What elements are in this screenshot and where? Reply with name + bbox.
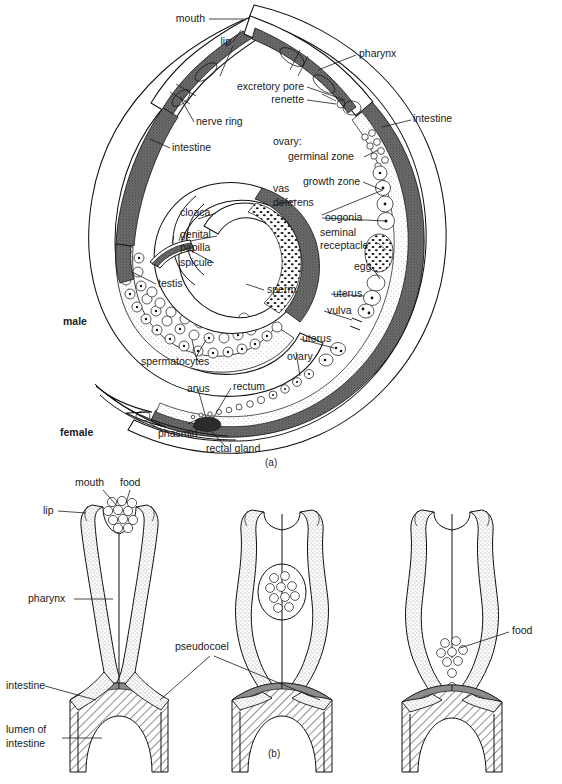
- pseudocoel-label: pseudocoel: [175, 640, 229, 652]
- spicule-label: spicule: [180, 256, 213, 268]
- food-right-label: food: [512, 624, 533, 636]
- sperm-label: sperm: [267, 283, 296, 295]
- mouth-label: mouth: [176, 12, 205, 24]
- female-label-label: female: [60, 426, 93, 438]
- panel-b-caption-label: (b): [268, 748, 280, 759]
- receptacle-label: receptacle: [320, 239, 369, 251]
- intestine-left-label: intestine: [172, 141, 211, 153]
- vas-label: vas: [273, 182, 289, 194]
- panel-a-caption-label: (a): [265, 457, 277, 468]
- cloaca-label: cloaca: [180, 206, 211, 218]
- seminal-label: seminal: [320, 226, 356, 238]
- intestine-label: intestine: [6, 679, 45, 691]
- uterus-upper-label: uterus: [333, 287, 362, 299]
- deferens-label: deferens: [273, 196, 314, 208]
- mouth-label: mouth: [75, 476, 104, 488]
- spermatocytes-label: spermatocytes: [141, 355, 209, 367]
- germinal-zone-label: germinal zone: [288, 150, 354, 162]
- intestine-2-label: intestine: [6, 737, 45, 749]
- male-label-label: male: [63, 315, 87, 327]
- papilla-label: papilla: [180, 241, 211, 253]
- phasmid-label: phasmid: [158, 427, 198, 439]
- ovary-heading-label: ovary:: [273, 135, 302, 147]
- testis-label: testis: [158, 277, 183, 289]
- pharynx-label: pharynx: [359, 47, 397, 59]
- nerve-ring-label: nerve ring: [196, 115, 243, 127]
- vulva-label: vulva: [327, 304, 352, 316]
- lumen-of-label: lumen of: [6, 723, 46, 735]
- uterus-lower-label: uterus: [302, 332, 331, 344]
- anus-label: anus: [187, 382, 210, 394]
- egg-label: egg: [354, 260, 372, 272]
- intestine-right-label: intestine: [413, 112, 452, 124]
- excretory-pore-label: excretory pore: [237, 80, 304, 92]
- rectal-gland-label: rectal gland: [206, 442, 260, 454]
- nematode-anatomy-figure: mouthlippharynxexcretory porerenetteinte…: [0, 0, 562, 784]
- rectum-label: rectum: [233, 380, 265, 392]
- pharynx-label: pharynx: [28, 592, 66, 604]
- lip-label: lip: [43, 504, 54, 516]
- lip-label: lip: [220, 35, 231, 47]
- oogonia-label: oogonia: [325, 211, 363, 223]
- food-left-label: food: [120, 476, 141, 488]
- genital-label: genital: [180, 228, 211, 240]
- ovary-label: ovary: [287, 350, 313, 362]
- renette-label: renette: [271, 93, 304, 105]
- growth-zone-label: growth zone: [303, 175, 360, 187]
